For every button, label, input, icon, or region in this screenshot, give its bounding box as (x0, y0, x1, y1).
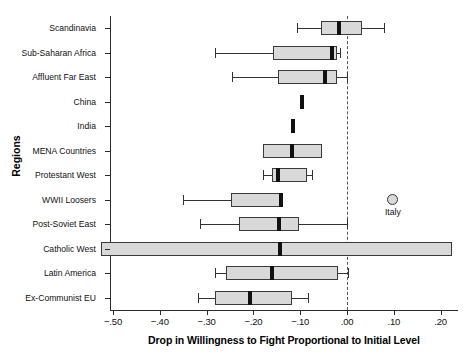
y-axis-title: Regions (10, 111, 22, 201)
median-marker (278, 242, 282, 256)
whisker-cap-lower (215, 48, 216, 58)
whisker-cap-lower (200, 219, 201, 229)
whisker-upper (292, 298, 308, 299)
whisker-cap-lower (215, 268, 216, 278)
whisker-cap-lower (198, 293, 199, 303)
y-axis-tick (105, 151, 110, 152)
y-axis-tick (105, 200, 110, 201)
whisker-cap-lower (232, 72, 233, 82)
x-axis-title: Drop in Willingness to Fight Proportiona… (110, 334, 458, 346)
median-marker (291, 119, 295, 133)
y-axis-tick (105, 77, 110, 78)
whisker-lower (215, 53, 273, 54)
y-axis-tick (105, 249, 110, 250)
boxplot-chart: Italy −.50−.40−.30−.20−.10.00.10.20Scand… (0, 0, 467, 359)
x-axis-line (110, 310, 458, 311)
boxplot-row (0, 115, 467, 137)
box-iqr (278, 70, 337, 84)
median-marker (270, 266, 274, 280)
x-axis-tick-label: −.30 (187, 316, 227, 327)
x-axis-tick-label: .00 (327, 316, 367, 327)
median-marker (279, 193, 283, 207)
y-axis-tick (105, 298, 110, 299)
median-marker (248, 291, 252, 305)
y-axis-tick-label: Scandinavia (49, 23, 96, 33)
whisker-cap-lower (183, 195, 184, 205)
x-axis-tick-label: −.50 (93, 316, 133, 327)
whisker-lower (215, 273, 226, 274)
whisker-lower (297, 28, 321, 29)
y-axis-tick (105, 102, 110, 103)
whisker-upper (337, 77, 347, 78)
whisker-cap-upper (347, 219, 348, 229)
x-axis-tick (160, 310, 161, 315)
whisker-lower (232, 77, 278, 78)
whisker-upper (362, 28, 384, 29)
whisker-cap-upper (347, 72, 348, 82)
y-axis-tick-label: Sub-Saharan Africa (21, 48, 96, 58)
x-axis-tick (253, 310, 254, 315)
whisker-lower (200, 224, 239, 225)
y-axis-tick-label: Ex-Communist EU (25, 293, 96, 303)
x-axis-tick-label: .10 (374, 316, 414, 327)
y-axis-tick-label: Latin America (44, 268, 96, 278)
x-axis-tick-label: −.10 (280, 316, 320, 327)
x-axis-tick-label: .20 (421, 316, 461, 327)
x-axis-tick (347, 310, 348, 315)
y-axis-tick (105, 53, 110, 54)
y-axis-tick-label: Catholic West (43, 244, 96, 254)
median-marker (300, 95, 304, 109)
whisker-cap-lower (297, 23, 298, 33)
whisker-upper (299, 224, 347, 225)
whisker-upper (338, 273, 348, 274)
whisker-lower (263, 175, 272, 176)
y-axis-tick-label: India (77, 121, 96, 131)
y-axis-tick-label: WWII Loosers (42, 195, 96, 205)
box-iqr (273, 46, 337, 60)
median-marker (276, 168, 280, 182)
whisker-cap-upper (348, 268, 349, 278)
y-axis-tick-label: China (74, 97, 96, 107)
box-iqr (231, 193, 281, 207)
box-iqr (101, 242, 452, 256)
whisker-cap-upper (312, 170, 313, 180)
median-marker (277, 217, 281, 231)
x-axis-tick (113, 310, 114, 315)
y-axis-tick (105, 273, 110, 274)
median-marker (330, 46, 334, 60)
x-axis-tick-label: −.40 (140, 316, 180, 327)
box-iqr (321, 21, 362, 35)
x-axis-tick (207, 310, 208, 315)
box-iqr (215, 291, 292, 305)
median-marker (290, 144, 294, 158)
y-axis-tick (105, 28, 110, 29)
whisker-cap-upper (308, 293, 309, 303)
y-axis-tick-label: Protestant West (35, 170, 96, 180)
x-axis-tick (441, 310, 442, 315)
boxplot-row (0, 91, 467, 113)
x-axis-tick (394, 310, 395, 315)
box-iqr (239, 217, 299, 231)
median-marker (323, 70, 327, 84)
whisker-lower (183, 200, 231, 201)
x-axis-tick-label: −.20 (233, 316, 273, 327)
whisker-cap-upper (384, 23, 385, 33)
y-axis-tick-label: Post-Soviet East (32, 219, 96, 229)
y-axis-tick (105, 224, 110, 225)
median-marker (337, 21, 341, 35)
y-axis-tick-label: Affluent Far East (32, 72, 96, 82)
whisker-lower (198, 298, 215, 299)
box-iqr (226, 266, 338, 280)
whisker-cap-upper (340, 48, 341, 58)
whisker-cap-lower (263, 170, 264, 180)
y-axis-tick (105, 175, 110, 176)
x-axis-tick (300, 310, 301, 315)
y-axis-tick-label: MENA Countries (32, 146, 96, 156)
y-axis-tick (105, 126, 110, 127)
